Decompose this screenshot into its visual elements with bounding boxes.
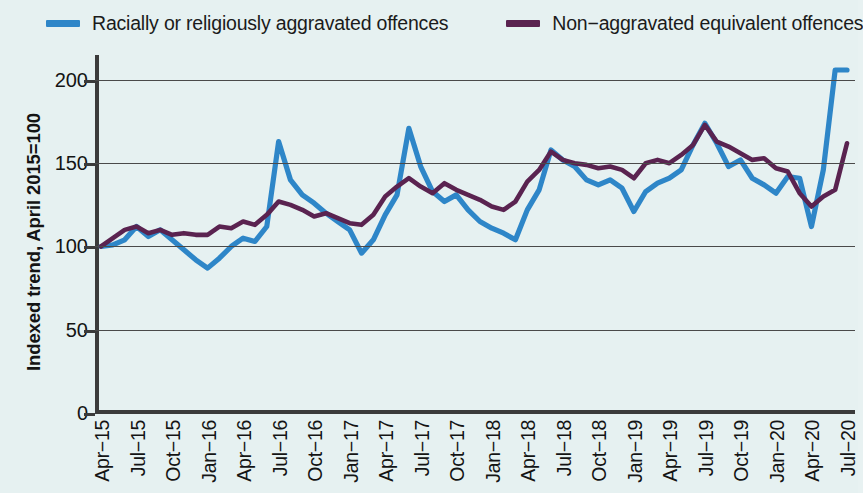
y-tick-label: 200 (34, 68, 88, 91)
y-tick-mark (84, 80, 95, 83)
y-tick-mark (84, 246, 95, 249)
y-tick-mark (84, 163, 95, 166)
x-tick-label: Jul−17 (411, 420, 434, 476)
chart-legend: Racially or religiously aggravated offen… (0, 6, 858, 40)
x-tick-label: Apr−17 (375, 420, 398, 482)
gridline (95, 330, 855, 331)
y-tick-label: 150 (34, 152, 88, 175)
legend-swatch-purple-icon (506, 20, 540, 27)
gridline (95, 246, 855, 247)
x-tick-label: Oct−18 (588, 420, 611, 482)
x-tick-label: Jan−20 (766, 420, 789, 483)
x-tick-label: Apr−15 (91, 420, 114, 482)
legend-label-aggravated: Racially or religiously aggravated offen… (92, 12, 448, 35)
x-tick-label: Jan−18 (482, 420, 505, 483)
x-tick-label: Apr−19 (659, 420, 682, 482)
y-tick-label: 0 (34, 402, 88, 425)
x-axis-tick-labels: Apr−15Jul−15Oct−15Jan−16Apr−16Jul−16Oct−… (95, 418, 857, 493)
series-line-aggravated (101, 70, 847, 268)
gridline (95, 163, 855, 164)
x-tick-label: Jan−17 (340, 420, 363, 483)
x-tick-label: Apr−18 (517, 420, 540, 482)
y-tick-mark (84, 330, 95, 333)
y-tick-mark (84, 413, 95, 416)
x-tick-label: Jul−15 (127, 420, 150, 476)
x-tick-label: Oct−16 (304, 420, 327, 482)
plot-area (95, 55, 855, 413)
x-tick-label: Jul−16 (269, 420, 292, 476)
x-tick-label: Jan−19 (624, 420, 647, 483)
chart-lines-svg (95, 55, 855, 413)
x-tick-label: Oct−17 (446, 420, 469, 482)
x-tick-label: Apr−16 (233, 420, 256, 482)
y-tick-label: 100 (34, 235, 88, 258)
y-axis-tick-labels: 050100150200 (34, 0, 88, 493)
x-tick-label: Oct−19 (730, 420, 753, 482)
x-tick-label: Jan−16 (198, 420, 221, 483)
legend-label-non-aggravated: Non−aggravated equivalent offences (552, 12, 863, 35)
y-tick-label: 50 (34, 318, 88, 341)
gridline (95, 80, 855, 81)
legend-item-aggravated: Racially or religiously aggravated offen… (46, 6, 448, 40)
x-tick-label: Apr−20 (801, 420, 824, 482)
series-line-non-aggravated (101, 125, 847, 247)
x-tick-label: Oct−15 (162, 420, 185, 482)
x-tick-label: Jul−19 (695, 420, 718, 476)
legend-item-non-aggravated: Non−aggravated equivalent offences (506, 6, 863, 40)
x-tick-label: Jul−18 (553, 420, 576, 476)
x-tick-label: Jul−20 (837, 420, 860, 476)
